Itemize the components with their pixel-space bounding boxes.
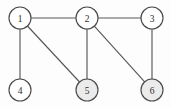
graph-node-2: 2 [76,7,98,29]
node-label-2: 2 [85,14,90,24]
graph-diagram: 123456 [0,0,171,108]
node-label-6: 6 [150,86,155,96]
graph-node-1: 1 [9,7,31,29]
graph-canvas: 123456 [0,0,171,108]
node-label-3: 3 [150,14,155,24]
node-label-5: 5 [85,86,90,96]
node-layer: 123456 [9,7,163,101]
node-label-4: 4 [18,86,23,96]
node-label-1: 1 [18,14,23,24]
edge-1-5 [27,26,80,82]
graph-node-5: 5 [76,79,98,101]
graph-node-4: 4 [9,79,31,101]
graph-node-6: 6 [141,79,163,101]
graph-node-3: 3 [141,7,163,29]
edge-2-6 [94,26,145,82]
